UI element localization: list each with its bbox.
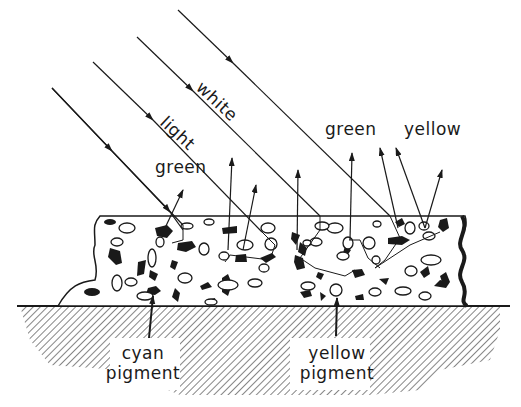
label-yellow-pigment-word: pigment — [296, 363, 378, 383]
label-yellow: yellow — [296, 343, 378, 363]
substrate-hatch — [17, 306, 510, 395]
label-yellow-top: yellow — [404, 119, 461, 139]
label-cyan-pigment-word: pigment — [105, 363, 181, 383]
label-green-right: green — [325, 119, 377, 139]
pigment-diagram: white light green green yellow cyan pigm… — [0, 0, 521, 407]
label-cyan: cyan — [105, 343, 181, 363]
diagram-drawing — [0, 0, 521, 407]
label-green-left: green — [155, 157, 207, 177]
label-cyan-pigment: cyan pigment — [105, 343, 181, 383]
label-yellow-pigment: yellow pigment — [296, 343, 378, 383]
